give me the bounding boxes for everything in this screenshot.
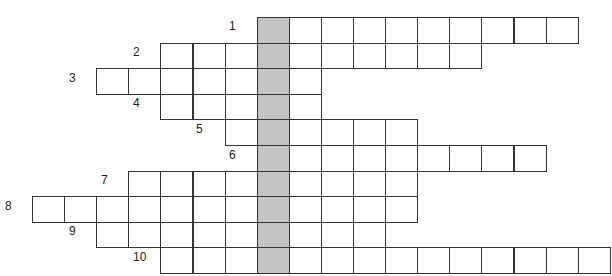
answer-cell[interactable] <box>193 247 226 274</box>
answer-cell[interactable] <box>96 222 129 249</box>
answer-cell[interactable] <box>417 247 450 274</box>
answer-cell[interactable] <box>289 43 322 70</box>
answer-cell[interactable] <box>481 145 514 172</box>
clue-number-5: 5 <box>196 122 203 136</box>
answer-cell[interactable] <box>578 247 611 274</box>
answer-cell[interactable] <box>225 196 258 223</box>
shaded-answer-cell[interactable] <box>257 94 290 121</box>
answer-cell[interactable] <box>128 68 161 95</box>
answer-cell[interactable] <box>289 145 322 172</box>
clue-number-6: 6 <box>229 148 236 162</box>
answer-cell[interactable] <box>353 196 386 223</box>
shaded-answer-cell[interactable] <box>257 43 290 70</box>
answer-cell[interactable] <box>160 222 193 249</box>
answer-cell[interactable] <box>321 222 354 249</box>
clue-number-3: 3 <box>69 71 76 85</box>
answer-cell[interactable] <box>385 145 418 172</box>
answer-cell[interactable] <box>289 94 322 121</box>
shaded-answer-cell[interactable] <box>257 247 290 274</box>
answer-cell[interactable] <box>353 145 386 172</box>
answer-cell[interactable] <box>225 222 258 249</box>
clue-number-10: 10 <box>133 250 146 264</box>
answer-cell[interactable] <box>514 17 547 44</box>
answer-cell[interactable] <box>321 196 354 223</box>
answer-cell[interactable] <box>160 94 193 121</box>
answer-cell[interactable] <box>193 68 226 95</box>
answer-cell[interactable] <box>160 43 193 70</box>
answer-cell[interactable] <box>449 145 482 172</box>
shaded-answer-cell[interactable] <box>257 196 290 223</box>
answer-cell[interactable] <box>449 247 482 274</box>
answer-cell[interactable] <box>193 94 226 121</box>
answer-cell[interactable] <box>353 222 386 249</box>
answer-cell[interactable] <box>193 196 226 223</box>
answer-cell[interactable] <box>32 196 65 223</box>
answer-cell[interactable] <box>353 119 386 146</box>
answer-cell[interactable] <box>160 196 193 223</box>
answer-cell[interactable] <box>160 247 193 274</box>
answer-cell[interactable] <box>321 145 354 172</box>
answer-cell[interactable] <box>385 171 418 198</box>
answer-cell[interactable] <box>321 17 354 44</box>
answer-cell[interactable] <box>225 119 258 146</box>
shaded-answer-cell[interactable] <box>257 145 290 172</box>
shaded-answer-cell[interactable] <box>257 119 290 146</box>
answer-cell[interactable] <box>385 43 418 70</box>
answer-cell[interactable] <box>289 171 322 198</box>
shaded-answer-cell[interactable] <box>257 17 290 44</box>
answer-cell[interactable] <box>289 222 322 249</box>
answer-cell[interactable] <box>514 145 547 172</box>
answer-cell[interactable] <box>385 196 418 223</box>
clue-number-1: 1 <box>229 19 236 33</box>
answer-cell[interactable] <box>160 171 193 198</box>
answer-cell[interactable] <box>385 247 418 274</box>
answer-cell[interactable] <box>289 119 322 146</box>
answer-cell[interactable] <box>193 222 226 249</box>
shaded-answer-cell[interactable] <box>257 68 290 95</box>
answer-cell[interactable] <box>353 247 386 274</box>
answer-cell[interactable] <box>225 247 258 274</box>
answer-cell[interactable] <box>353 17 386 44</box>
answer-cell[interactable] <box>225 68 258 95</box>
answer-cell[interactable] <box>225 171 258 198</box>
answer-cell[interactable] <box>321 119 354 146</box>
answer-cell[interactable] <box>353 43 386 70</box>
answer-cell[interactable] <box>385 119 418 146</box>
answer-cell[interactable] <box>321 43 354 70</box>
answer-cell[interactable] <box>514 247 547 274</box>
answer-cell[interactable] <box>481 17 514 44</box>
answer-cell[interactable] <box>321 247 354 274</box>
answer-cell[interactable] <box>128 222 161 249</box>
answer-cell[interactable] <box>289 247 322 274</box>
answer-cell[interactable] <box>417 17 450 44</box>
answer-cell[interactable] <box>353 171 386 198</box>
answer-cell[interactable] <box>417 145 450 172</box>
answer-cell[interactable] <box>289 17 322 44</box>
shaded-answer-cell[interactable] <box>257 171 290 198</box>
clue-number-8: 8 <box>5 199 12 213</box>
shaded-answer-cell[interactable] <box>257 222 290 249</box>
answer-cell[interactable] <box>385 17 418 44</box>
answer-cell[interactable] <box>225 43 258 70</box>
answer-cell[interactable] <box>160 68 193 95</box>
answer-cell[interactable] <box>289 196 322 223</box>
clue-number-7: 7 <box>101 173 108 187</box>
answer-cell[interactable] <box>417 43 450 70</box>
answer-cell[interactable] <box>225 94 258 121</box>
answer-cell[interactable] <box>546 17 579 44</box>
answer-cell[interactable] <box>481 247 514 274</box>
answer-cell[interactable] <box>449 43 482 70</box>
answer-cell[interactable] <box>289 68 322 95</box>
answer-cell[interactable] <box>96 68 129 95</box>
answer-cell[interactable] <box>96 196 129 223</box>
answer-cell[interactable] <box>321 171 354 198</box>
answer-cell[interactable] <box>449 17 482 44</box>
answer-cell[interactable] <box>546 247 579 274</box>
answer-cell[interactable] <box>193 43 226 70</box>
answer-cell[interactable] <box>64 196 97 223</box>
clue-number-4: 4 <box>133 96 140 110</box>
answer-cell[interactable] <box>193 171 226 198</box>
answer-cell[interactable] <box>128 196 161 223</box>
answer-cell[interactable] <box>128 171 161 198</box>
crossword-grid: 12345678910 <box>0 0 612 276</box>
